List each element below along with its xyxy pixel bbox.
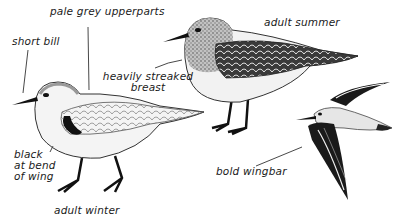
label-adult-summer: adult summer [264,17,340,28]
label-heavily-streaked-breast: heavily streaked breast [102,71,194,93]
label-adult-winter: adult winter [54,205,120,216]
bird-drawings [0,0,397,218]
label-pale-grey-upperparts: pale grey upperparts [50,6,165,17]
label-short-bill: short bill [12,36,60,47]
bird-illustration: pale grey upperparts short bill adult su… [0,0,397,218]
flight-bird [296,82,392,200]
label-bold-wingbar: bold wingbar [216,166,287,177]
label-black-at-bend-of-wing: black at bend of wing [14,149,56,182]
